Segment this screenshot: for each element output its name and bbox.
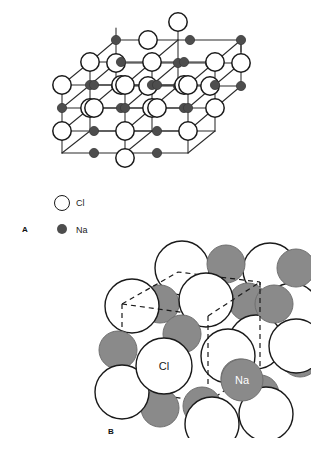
svg-text:Na: Na [235, 374, 250, 386]
legend-cl-swatch [54, 195, 70, 211]
legend-na-swatch [57, 224, 67, 234]
panel-letter-a: A [22, 225, 28, 234]
labelled-na-sphere: Na [221, 359, 263, 401]
legend-cl-label: Cl [76, 198, 85, 208]
lattice-ions [53, 13, 250, 167]
panel-a-ball-and-stick [0, 0, 311, 200]
legend-na-label: Na [76, 225, 88, 235]
svg-text:Cl: Cl [159, 360, 169, 372]
panel-b-space-filling: Na Cl [60, 238, 311, 438]
panel-letter-b: B [108, 427, 114, 436]
nacl-crystal-figure: A Cl Na [0, 0, 311, 458]
labelled-cl-sphere: Cl [136, 338, 192, 394]
